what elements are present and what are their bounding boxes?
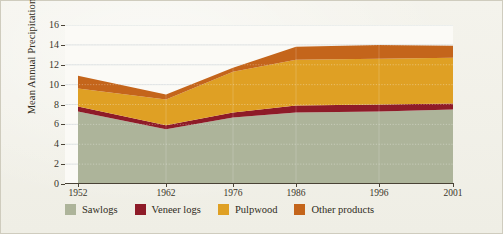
y-tick-label: 10: [33, 80, 59, 90]
legend-swatch-icon: [218, 204, 229, 215]
y-tick-label: 8: [33, 100, 59, 110]
x-tick-label: 1962: [144, 188, 188, 198]
x-tick-label: 1996: [357, 188, 401, 198]
x-tick-mark: [379, 183, 380, 187]
y-tick-label: 2: [33, 159, 59, 169]
legend-item[interactable]: Sawlogs: [65, 204, 118, 215]
y-tick-label: 16: [33, 20, 59, 30]
legend-label: Sawlogs: [82, 204, 118, 215]
chart-legend: SawlogsVeneer logsPulpwoodOther products: [65, 201, 465, 217]
x-tick-label: 2001: [431, 188, 475, 198]
x-tick-mark: [453, 183, 454, 187]
y-tick-label: 6: [33, 119, 59, 129]
legend-label: Pulpwood: [235, 204, 278, 215]
y-axis-tick-labels: 0246810121416: [33, 1, 59, 234]
legend-swatch-icon: [294, 204, 305, 215]
plot-area: [65, 25, 453, 184]
x-tick-mark: [78, 183, 79, 187]
legend-swatch-icon: [135, 204, 146, 215]
legend-label: Veneer logs: [152, 204, 201, 215]
legend-swatch-icon: [65, 204, 76, 215]
y-tick-label: 14: [33, 40, 59, 50]
chart-figure: Mean Annual Precipitation 0246810121416 …: [0, 0, 503, 234]
y-tick-mark: [61, 184, 65, 185]
x-tick-mark: [296, 183, 297, 187]
x-tick-mark: [233, 183, 234, 187]
x-axis-line: [65, 183, 454, 184]
stacked-area-svg: [65, 25, 453, 184]
legend-item[interactable]: Pulpwood: [218, 204, 278, 215]
x-tick-mark: [166, 183, 167, 187]
legend-label: Other products: [311, 204, 374, 215]
x-tick-label: 1986: [274, 188, 318, 198]
y-tick-label: 12: [33, 60, 59, 70]
legend-item[interactable]: Veneer logs: [135, 204, 201, 215]
y-tick-label: 4: [33, 139, 59, 149]
legend-item[interactable]: Other products: [294, 204, 374, 215]
x-tick-label: 1952: [56, 188, 100, 198]
x-tick-label: 1976: [211, 188, 255, 198]
